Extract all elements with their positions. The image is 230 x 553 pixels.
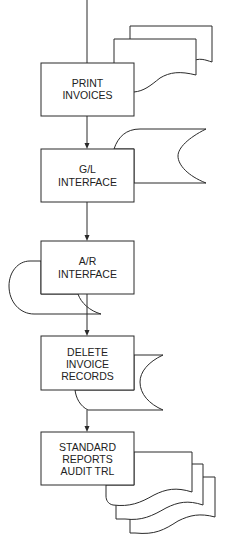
arrowhead-icon bbox=[85, 426, 90, 432]
flowchart-diagram: PRINT INVOICES G/L INTERFACE A/R INTERFA… bbox=[0, 0, 230, 553]
step-label-line: G/L bbox=[79, 163, 96, 175]
step-label-line: AUDIT TRL bbox=[61, 465, 115, 477]
step-label-line: DELETE bbox=[67, 346, 108, 358]
step-label-line: INTERFACE bbox=[58, 176, 117, 188]
arrowhead-icon bbox=[85, 143, 90, 149]
step-standard-reports[interactable]: STANDARD REPORTS AUDIT TRL bbox=[41, 432, 134, 485]
step-ar-interface[interactable]: A/R INTERFACE bbox=[41, 241, 134, 294]
step-label-line: PRINT bbox=[72, 77, 104, 89]
step-label-line: INVOICES bbox=[62, 89, 112, 101]
step-label-line: RECORDS bbox=[61, 370, 114, 382]
step-label-line: REPORTS bbox=[62, 453, 113, 465]
arrowhead-icon bbox=[85, 330, 90, 336]
step-gl-interface[interactable]: G/L INTERFACE bbox=[41, 149, 134, 202]
step-delete-invoice-records[interactable]: DELETE INVOICE RECORDS bbox=[41, 336, 134, 390]
step-label-line: A/R bbox=[79, 255, 97, 267]
arrowhead-icon bbox=[85, 235, 90, 241]
step-print-invoices[interactable]: PRINT INVOICES bbox=[41, 63, 134, 116]
step-label-line: STANDARD bbox=[59, 441, 116, 453]
step-label-line: INVOICE bbox=[66, 358, 109, 370]
step-label-line: INTERFACE bbox=[58, 268, 117, 280]
